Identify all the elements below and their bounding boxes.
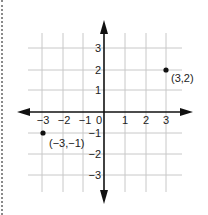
coordinate-plane: −3 −2 −1 0 1 2 3 3 2 1 −1 −2 −3 (3,2) (−…	[0, 0, 208, 215]
y-tick-label: −1	[88, 127, 101, 139]
x-tick-label: 2	[143, 114, 149, 126]
point-marker-icon	[163, 67, 168, 72]
point-label: (3,2)	[171, 72, 194, 84]
y-tick-label: −3	[88, 169, 101, 181]
x-tick-label: −3	[37, 114, 50, 126]
y-tick-label: 1	[95, 84, 101, 96]
point-label: (−3,−1)	[49, 137, 84, 149]
x-tick-label: 1	[122, 114, 128, 126]
y-tick-label: 3	[95, 42, 101, 54]
y-axis-down-arrow-icon	[100, 190, 108, 204]
point-marker-icon	[40, 130, 45, 135]
x-axis-left-arrow-icon	[17, 108, 30, 116]
x-tick-label: −1	[79, 114, 92, 126]
x-tick-label: −2	[58, 114, 71, 126]
x-axis-right-arrow-icon	[180, 108, 193, 116]
y-tick-label: −2	[88, 148, 101, 160]
x-tick-labels: −3 −2 −1 0 1 2 3	[37, 114, 169, 126]
y-axis-up-arrow-icon	[100, 20, 108, 34]
x-tick-label-origin: 0	[96, 114, 102, 126]
x-tick-label: 3	[163, 114, 169, 126]
y-tick-label: 2	[95, 64, 101, 76]
